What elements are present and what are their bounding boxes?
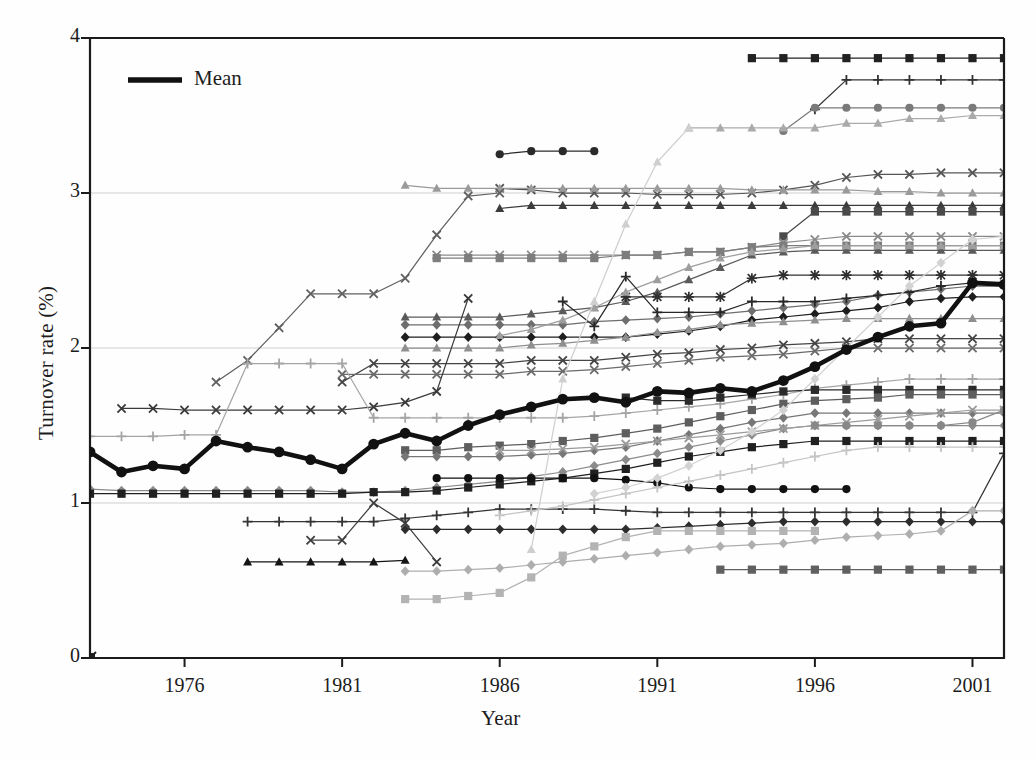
chart-figure: Turnover rate (%) Year Mean 012341976198…: [0, 0, 1036, 759]
x-axis-title: Year: [481, 706, 521, 731]
y-tick-label: 2: [52, 334, 80, 357]
x-tick-label: 1991: [625, 674, 689, 697]
axis-lines: [81, 38, 1004, 667]
x-tick-label: 2001: [940, 674, 1004, 697]
y-tick-label: 1: [52, 489, 80, 512]
x-tick-label: 1976: [153, 674, 217, 697]
x-tick-label: 1996: [783, 674, 847, 697]
legend-label-mean: Mean: [194, 66, 242, 91]
y-tick-label: 0: [52, 644, 80, 667]
y-axis-title: Turnover rate (%): [34, 286, 59, 440]
chart-canvas: [0, 0, 1036, 759]
data-series-layer: [84, 54, 1009, 664]
y-tick-label: 4: [52, 24, 80, 47]
x-tick-label: 1981: [310, 674, 374, 697]
y-tick-label: 3: [52, 179, 80, 202]
x-tick-label: 1986: [468, 674, 532, 697]
